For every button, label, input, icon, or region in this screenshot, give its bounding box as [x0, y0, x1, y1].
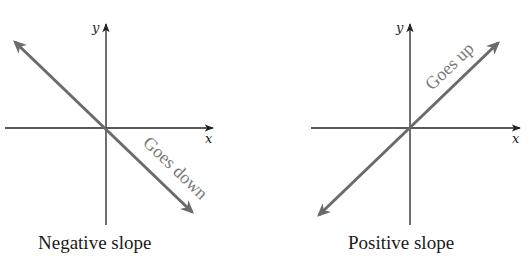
positive-slope-caption: Positive slope — [348, 232, 454, 254]
positive-slope-panel: x y Goes up — [311, 20, 520, 225]
positive-slope-line — [319, 43, 498, 215]
x-axis-label: x — [205, 131, 213, 146]
y-axis-label: y — [91, 20, 100, 35]
y-axis-label: y — [395, 20, 404, 35]
negative-slope-line — [15, 42, 192, 212]
negative-slope-panel: x y Goes down — [5, 20, 213, 225]
goes-down-annotation: Goes down — [139, 132, 212, 203]
x-axis-label: x — [512, 131, 520, 146]
negative-slope-caption: Negative slope — [38, 232, 151, 254]
goes-up-annotation: Goes up — [421, 38, 478, 94]
slope-diagram: x y Goes down x y Goes up — [0, 0, 529, 260]
